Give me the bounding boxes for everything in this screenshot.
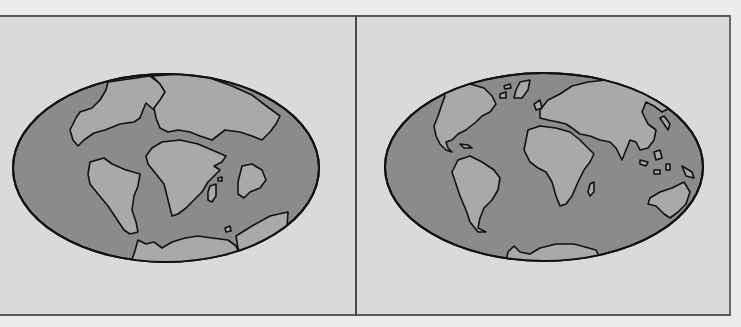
continent-eurasia-past: [152, 74, 280, 140]
islet-past: [218, 177, 222, 181]
islet-south-past: [225, 226, 231, 232]
past-world-map: [0, 0, 356, 327]
